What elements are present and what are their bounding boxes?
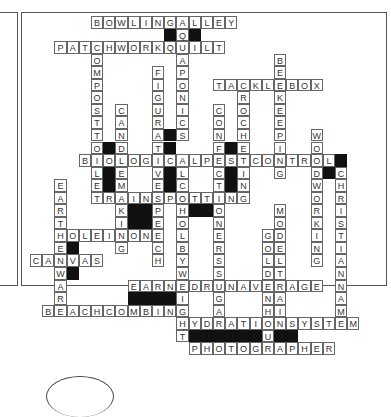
letter-cell[interactable]: R bbox=[213, 317, 225, 330]
letter-cell[interactable]: O bbox=[262, 317, 274, 330]
letter-cell[interactable]: N bbox=[164, 280, 176, 293]
letter-cell[interactable]: U bbox=[176, 41, 188, 54]
letter-cell[interactable]: N bbox=[140, 229, 152, 242]
letter-cell[interactable]: D bbox=[201, 317, 213, 330]
letter-cell[interactable]: H bbox=[54, 229, 66, 242]
letter-cell[interactable]: I bbox=[189, 41, 201, 54]
letter-cell[interactable]: O bbox=[103, 16, 115, 29]
letter-cell[interactable]: T bbox=[152, 142, 164, 155]
letter-cell[interactable]: E bbox=[237, 142, 249, 155]
letter-cell[interactable]: N bbox=[176, 91, 188, 104]
letter-cell[interactable]: N bbox=[115, 229, 127, 242]
letter-cell[interactable]: O bbox=[262, 154, 274, 167]
letter-cell[interactable]: E bbox=[91, 179, 103, 192]
letter-cell[interactable]: A bbox=[335, 292, 347, 305]
letter-cell[interactable]: E bbox=[274, 79, 286, 92]
letter-cell[interactable]: L bbox=[176, 167, 188, 180]
letter-cell[interactable]: T bbox=[176, 330, 188, 343]
letter-cell[interactable]: N bbox=[335, 267, 347, 280]
letter-cell[interactable]: C bbox=[250, 154, 262, 167]
letter-cell[interactable]: N bbox=[262, 292, 274, 305]
letter-cell[interactable]: R bbox=[213, 242, 225, 255]
letter-cell[interactable]: O bbox=[91, 142, 103, 155]
letter-cell[interactable]: N bbox=[54, 254, 66, 267]
letter-cell[interactable]: T bbox=[79, 41, 91, 54]
letter-cell[interactable]: O bbox=[213, 204, 225, 217]
letter-cell[interactable]: T bbox=[237, 317, 249, 330]
letter-cell[interactable]: I bbox=[176, 292, 188, 305]
letter-cell[interactable]: O bbox=[237, 342, 249, 355]
letter-cell[interactable]: L bbox=[323, 154, 335, 167]
letter-cell[interactable]: Y bbox=[225, 16, 237, 29]
letter-cell[interactable]: C bbox=[91, 41, 103, 54]
letter-cell[interactable]: N bbox=[213, 129, 225, 142]
letter-cell[interactable]: E bbox=[213, 229, 225, 242]
letter-cell[interactable]: R bbox=[298, 154, 310, 167]
letter-cell[interactable]: I bbox=[115, 217, 127, 230]
letter-cell[interactable]: D bbox=[311, 167, 323, 180]
letter-cell[interactable]: T bbox=[335, 229, 347, 242]
letter-cell[interactable]: V bbox=[250, 280, 262, 293]
letter-cell[interactable]: R bbox=[274, 280, 286, 293]
letter-cell[interactable]: O bbox=[176, 79, 188, 92]
letter-cell[interactable]: T bbox=[323, 317, 335, 330]
letter-cell[interactable]: T bbox=[201, 192, 213, 205]
letter-cell[interactable]: E bbox=[274, 66, 286, 79]
letter-cell[interactable]: G bbox=[274, 167, 286, 180]
letter-cell[interactable]: O bbox=[91, 91, 103, 104]
letter-cell[interactable]: I bbox=[335, 204, 347, 217]
letter-cell[interactable]: O bbox=[176, 192, 188, 205]
letter-cell[interactable]: O bbox=[128, 154, 140, 167]
letter-cell[interactable]: G bbox=[237, 192, 249, 205]
letter-cell[interactable]: E bbox=[115, 167, 127, 180]
letter-cell[interactable]: X bbox=[311, 79, 323, 92]
letter-cell[interactable]: A bbox=[115, 192, 127, 205]
letter-cell[interactable]: P bbox=[164, 192, 176, 205]
letter-cell[interactable]: G bbox=[250, 342, 262, 355]
letter-cell[interactable]: W bbox=[115, 16, 127, 29]
letter-cell[interactable]: W bbox=[115, 41, 127, 54]
letter-cell[interactable]: E bbox=[274, 242, 286, 255]
letter-cell[interactable]: O bbox=[176, 217, 188, 230]
letter-cell[interactable]: U bbox=[213, 280, 225, 293]
letter-cell[interactable]: O bbox=[298, 79, 310, 92]
letter-cell[interactable]: O bbox=[128, 229, 140, 242]
letter-cell[interactable]: P bbox=[189, 342, 201, 355]
letter-cell[interactable]: L bbox=[91, 167, 103, 180]
letter-cell[interactable]: A bbox=[225, 317, 237, 330]
letter-cell[interactable]: T bbox=[189, 192, 201, 205]
letter-cell[interactable]: M bbox=[91, 66, 103, 79]
letter-cell[interactable]: T bbox=[91, 192, 103, 205]
letter-cell[interactable]: L bbox=[189, 154, 201, 167]
letter-cell[interactable]: S bbox=[213, 267, 225, 280]
letter-cell[interactable]: E bbox=[274, 104, 286, 117]
letter-cell[interactable]: E bbox=[274, 116, 286, 129]
letter-cell[interactable]: I bbox=[237, 167, 249, 180]
letter-cell[interactable]: B bbox=[140, 305, 152, 318]
letter-cell[interactable]: L bbox=[79, 229, 91, 242]
letter-cell[interactable]: T bbox=[213, 41, 225, 54]
letter-cell[interactable]: M bbox=[128, 305, 140, 318]
letter-cell[interactable]: R bbox=[335, 192, 347, 205]
letter-cell[interactable]: P bbox=[54, 41, 66, 54]
letter-cell[interactable]: T bbox=[237, 154, 249, 167]
letter-cell[interactable]: I bbox=[140, 16, 152, 29]
letter-cell[interactable]: N bbox=[225, 192, 237, 205]
letter-cell[interactable]: C bbox=[115, 104, 127, 117]
letter-cell[interactable]: S bbox=[91, 254, 103, 267]
letter-cell[interactable]: C bbox=[103, 305, 115, 318]
letter-cell[interactable]: S bbox=[91, 104, 103, 117]
letter-cell[interactable]: G bbox=[298, 280, 310, 293]
letter-cell[interactable]: K bbox=[152, 41, 164, 54]
letter-cell[interactable]: G bbox=[115, 242, 127, 255]
letter-cell[interactable]: H bbox=[176, 317, 188, 330]
letter-cell[interactable]: A bbox=[237, 280, 249, 293]
letter-cell[interactable]: A bbox=[115, 116, 127, 129]
letter-cell[interactable]: Y bbox=[298, 317, 310, 330]
letter-cell[interactable]: W bbox=[176, 267, 188, 280]
letter-cell[interactable]: S bbox=[311, 317, 323, 330]
letter-cell[interactable]: E bbox=[54, 242, 66, 255]
letter-cell[interactable]: N bbox=[115, 129, 127, 142]
letter-cell[interactable]: D bbox=[274, 229, 286, 242]
letter-cell[interactable]: R bbox=[54, 204, 66, 217]
